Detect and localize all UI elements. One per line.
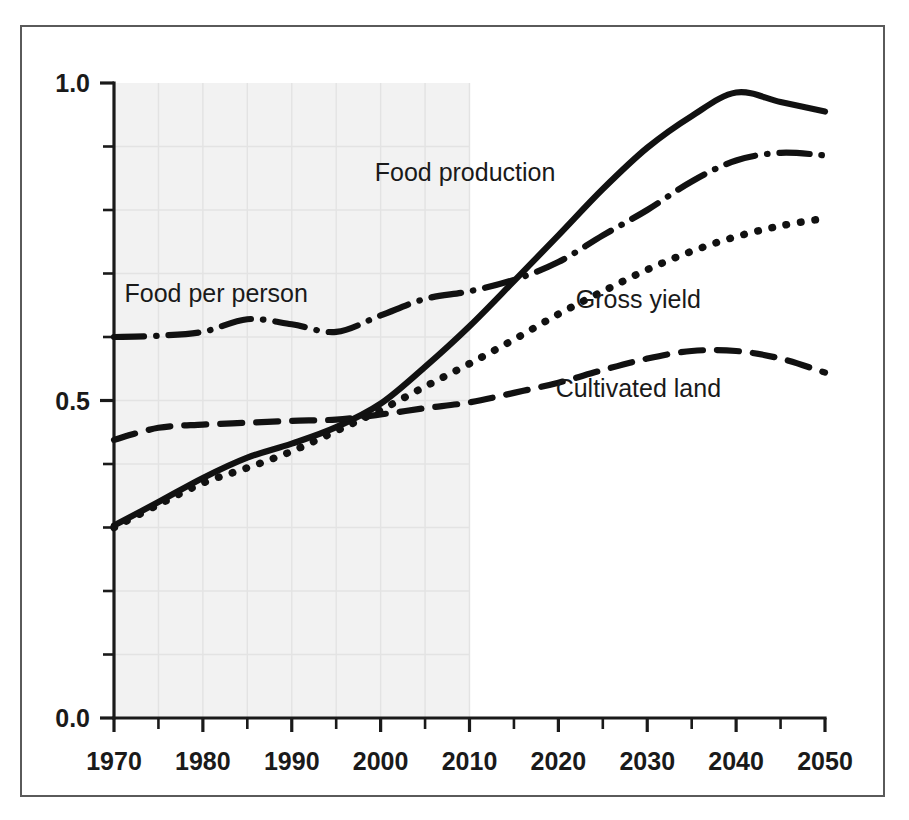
series-label-gross-yield: Gross yield	[576, 285, 701, 313]
x-axis-tick-label: 2000	[353, 747, 409, 775]
x-axis-tick-label: 2030	[619, 747, 675, 775]
line-chart: 1.00.50.01970198019902000201020202030204…	[0, 0, 909, 820]
y-axis-tick-label: 0.5	[55, 387, 90, 415]
figure-container: 1.00.50.01970198019902000201020202030204…	[0, 0, 909, 820]
x-axis-tick-label: 2040	[708, 747, 764, 775]
series-label-food-per-person: Food per person	[124, 279, 307, 307]
x-axis-tick-label: 1980	[175, 747, 231, 775]
x-axis-tick-label: 2050	[797, 747, 853, 775]
y-axis-tick-label: 0.0	[55, 704, 90, 732]
x-axis-tick-label: 2020	[531, 747, 587, 775]
x-axis-tick-label: 1970	[86, 747, 142, 775]
x-axis-tick-label: 2010	[442, 747, 498, 775]
series-label-cultivated-land: Cultivated land	[556, 374, 721, 402]
x-axis-tick-label: 1990	[264, 747, 320, 775]
series-label-food-production: Food production	[375, 158, 556, 186]
y-axis-tick-label: 1.0	[55, 69, 90, 97]
